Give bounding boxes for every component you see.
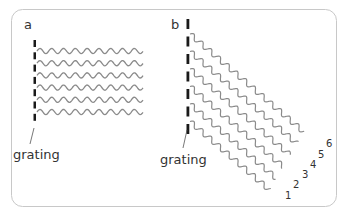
grating-slit-segment bbox=[187, 54, 190, 64]
grating-a-label: grating bbox=[13, 147, 60, 162]
order-label-5: 5 bbox=[318, 149, 324, 160]
grating-slit-segment bbox=[34, 114, 37, 121]
figure-frame bbox=[12, 10, 337, 207]
grating-b-label: grating bbox=[160, 152, 207, 167]
grating-slit-segment bbox=[187, 37, 190, 47]
grating-slit-segment bbox=[34, 89, 37, 96]
grating-slit-segment bbox=[34, 77, 37, 84]
grating-slit-segment bbox=[34, 102, 37, 109]
grating-slit-segment bbox=[34, 52, 37, 59]
grating-slit-segment bbox=[187, 124, 190, 134]
panel-a-label: a bbox=[24, 17, 32, 32]
grating-slit-segment bbox=[187, 72, 190, 82]
grating-diffraction-diagram: a grating b grating 1 2 3 4 5 6 bbox=[0, 0, 348, 217]
order-label-3: 3 bbox=[302, 169, 308, 180]
grating-slit-segment bbox=[34, 40, 37, 47]
panel-b-label: b bbox=[171, 17, 179, 32]
grating-slit-segment bbox=[187, 107, 190, 117]
order-label-6: 6 bbox=[326, 138, 332, 149]
order-label-4: 4 bbox=[310, 159, 316, 170]
order-label-1: 1 bbox=[285, 190, 291, 201]
grating-slit-segment bbox=[187, 89, 190, 99]
grating-slit-segment bbox=[34, 65, 37, 72]
grating-slit-segment bbox=[187, 19, 190, 29]
order-label-2: 2 bbox=[293, 179, 299, 190]
